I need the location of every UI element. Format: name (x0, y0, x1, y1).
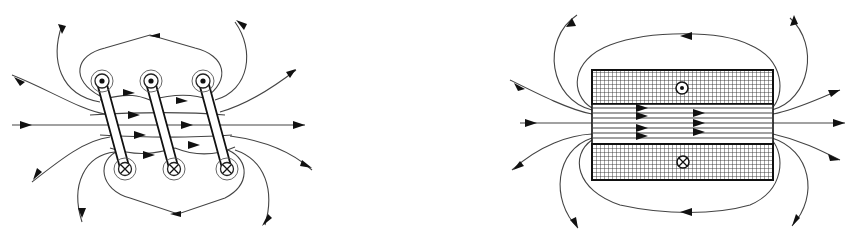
field-line-bottom-right (235, 150, 269, 225)
solenoid-coil-diagram (0, 0, 320, 240)
field-line-top-right (215, 22, 247, 100)
field-line-bottom-left (560, 138, 592, 228)
core-field-lines (592, 108, 773, 138)
coil-field-lines-svg (0, 0, 320, 240)
current-in-cross-icon (677, 156, 689, 168)
solenoid-cross-section-diagram (500, 0, 848, 240)
field-line-lower-left (32, 137, 110, 182)
cross-section-field-lines-svg (500, 0, 848, 240)
field-line-top-left (57, 25, 100, 102)
field-line-bottom-right (772, 138, 808, 226)
field-line-top-right (772, 18, 808, 110)
field-line-upper-left (510, 80, 592, 114)
field-line-top-left (554, 15, 592, 110)
field-line-lower-left (512, 134, 592, 170)
current-out-dot-icon (676, 82, 688, 94)
